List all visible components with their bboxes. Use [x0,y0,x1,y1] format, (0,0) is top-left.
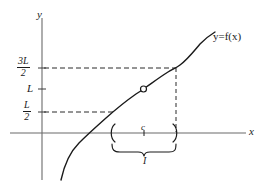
open-circle-discontinuity [141,86,147,92]
ytick-label-L: L [27,83,33,94]
ytick-label-3L-over-2-numerator: 3L [17,56,30,67]
interval-label-I: I [143,156,146,166]
y-axis-label: y [37,9,42,20]
function-curve-upper [146,32,216,88]
graph-canvas [0,0,265,183]
function-curve-lower [61,91,142,181]
ytick-label-L-over-2-denominator: 2 [23,111,31,123]
ytick-label-3L-over-2: 3L 2 [17,56,30,78]
ytick-label-L-over-2: L 2 [23,100,31,122]
figure-container: y x y=f(x) 3L 2 L L 2 c I [0,0,265,183]
interval-center-label-c: c [141,123,145,132]
ytick-label-3L-over-2-denominator: 2 [17,67,30,79]
ytick-label-L-over-2-numerator: L [23,100,31,111]
curve-equation-label: y=f(x) [213,31,241,42]
x-axis-label: x [249,126,254,137]
